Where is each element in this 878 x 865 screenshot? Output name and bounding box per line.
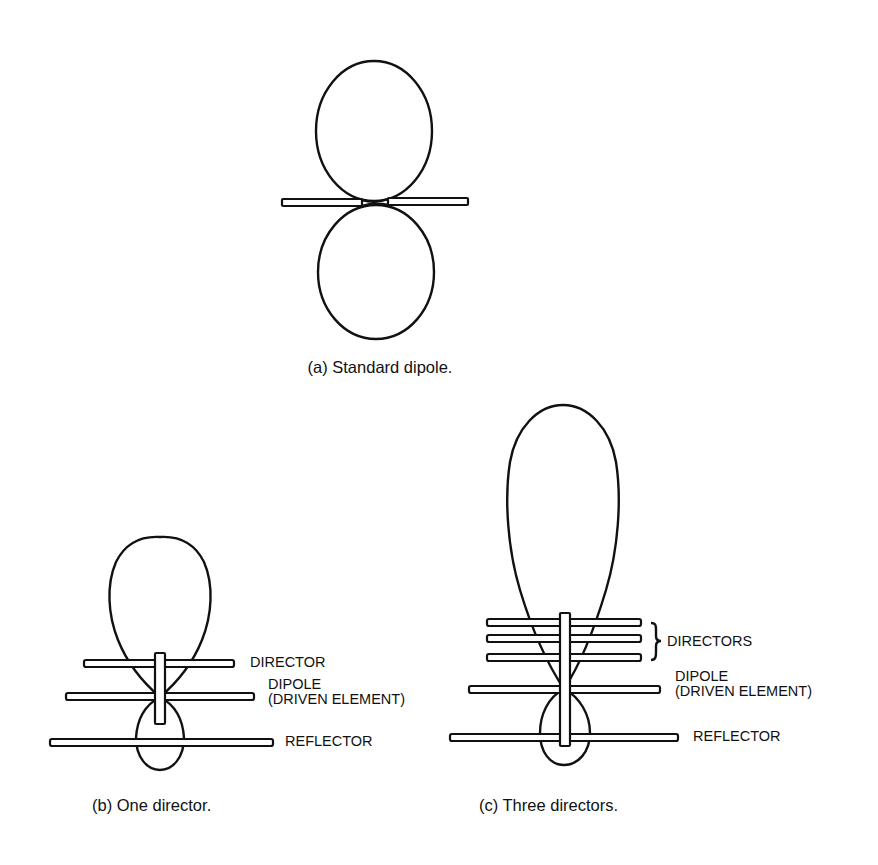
panel-c-three-directors: DIRECTORS DIPOLE (DRIVEN ELEMENT) REFLEC… xyxy=(450,405,812,814)
label-director: DIRECTOR xyxy=(250,654,325,670)
boom xyxy=(560,613,570,746)
caption-b: (b) One director. xyxy=(92,796,211,814)
dipole-right-arm xyxy=(388,198,468,205)
label-driven-element: (DRIVEN ELEMENT) xyxy=(268,691,405,707)
reflector-element xyxy=(50,739,273,746)
panel-b-one-director: DIRECTOR DIPOLE (DRIVEN ELEMENT) REFLECT… xyxy=(50,537,405,814)
boom xyxy=(155,653,165,724)
label-driven-element: (DRIVEN ELEMENT) xyxy=(675,683,812,699)
label-dipole: DIPOLE xyxy=(268,676,322,692)
upper-lobe xyxy=(316,61,432,201)
antenna-radiation-diagram: (a) Standard dipole. DIRECTOR DIPOLE (DR… xyxy=(0,0,878,865)
label-directors: DIRECTORS xyxy=(667,633,752,649)
panel-a-standard-dipole: (a) Standard dipole. xyxy=(282,61,468,376)
label-dipole: DIPOLE xyxy=(675,668,729,684)
label-reflector: REFLECTOR xyxy=(693,728,781,744)
caption-a: (a) Standard dipole. xyxy=(308,358,453,376)
caption-c: (c) Three directors. xyxy=(479,796,618,814)
lower-lobe xyxy=(318,205,434,339)
directors-brace xyxy=(651,623,661,660)
dipole-left-arm xyxy=(282,199,362,206)
label-reflector: REFLECTOR xyxy=(285,733,373,749)
